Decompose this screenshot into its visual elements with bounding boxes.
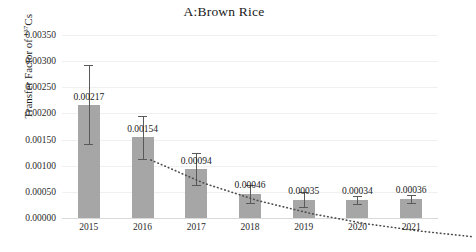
data-label: 0.00035 bbox=[288, 186, 319, 196]
x-axis-tick-label: 2021 bbox=[402, 222, 421, 232]
x-axis-tick-label: 2020 bbox=[348, 222, 367, 232]
data-label: 0.00094 bbox=[181, 156, 212, 166]
y-axis-tick-label: 0.00150 bbox=[0, 135, 56, 145]
y-axis-title: Transfer Factor of 137Cs bbox=[22, 0, 35, 146]
gridline bbox=[62, 35, 438, 36]
data-label: 0.00034 bbox=[342, 186, 373, 196]
x-axis-tick-label: 2016 bbox=[133, 222, 152, 232]
error-bar-cap-bottom bbox=[84, 144, 93, 145]
y-axis-tick-label: 0.00250 bbox=[0, 82, 56, 92]
x-axis-tick-label: 2018 bbox=[241, 222, 260, 232]
data-label: 0.00036 bbox=[396, 185, 427, 195]
gridline bbox=[62, 61, 438, 62]
y-axis-tick-label: 0.00350 bbox=[0, 30, 56, 40]
x-axis-tick-label: 2015 bbox=[79, 222, 98, 232]
y-axis-tick-label: 0.00200 bbox=[0, 108, 56, 118]
chart-title: A:Brown Rice bbox=[0, 4, 448, 20]
error-bar-cap-top bbox=[84, 65, 93, 66]
data-label: 0.00154 bbox=[127, 124, 158, 134]
plot-area: 0.002170.001540.000940.000460.000350.000… bbox=[62, 35, 438, 218]
x-axis-tick-label: 2019 bbox=[294, 222, 313, 232]
y-axis-tick-label: 0.00300 bbox=[0, 56, 56, 66]
y-axis-tick-label: 0.00100 bbox=[0, 161, 56, 171]
y-axis-tick-label: 0.00000 bbox=[0, 213, 56, 223]
error-bar-line bbox=[89, 65, 90, 143]
x-axis-tick-label: 2017 bbox=[187, 222, 206, 232]
data-label: 0.00217 bbox=[73, 92, 104, 102]
y-axis-title-prefix: Transfer Factor of bbox=[22, 36, 34, 118]
y-axis-title-suffix: Cs bbox=[22, 14, 34, 26]
data-label: 0.00046 bbox=[235, 180, 266, 190]
y-axis-tick-label: 0.00050 bbox=[0, 187, 56, 197]
